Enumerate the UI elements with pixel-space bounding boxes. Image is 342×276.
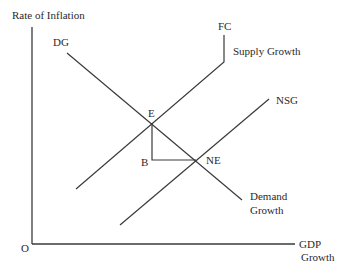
x-axis-label-line2: Growth [301,251,335,263]
point-ne-label: NE [206,154,221,166]
new-supply-label: NSG [276,94,298,106]
point-e-label: E [148,107,155,119]
x-axis-label-line1: GDP [299,238,321,250]
y-axis-label: Rate of Inflation [12,9,85,21]
supply-top-label: FC [218,20,231,32]
demand-end-label-line2: Growth [250,204,284,216]
demand-end-label-line1: Demand [250,190,288,202]
demand-growth-line [67,53,242,200]
supply-side-label: Supply Growth [233,45,301,57]
diagram-svg: Rate of Inflation O GDP Growth DG Demand… [0,0,342,276]
point-b-label: B [141,156,148,168]
adjustment-path [152,123,196,160]
demand-top-label: DG [53,36,69,48]
origin-label: O [21,242,29,254]
diagram-canvas: Rate of Inflation O GDP Growth DG Demand… [0,0,342,276]
